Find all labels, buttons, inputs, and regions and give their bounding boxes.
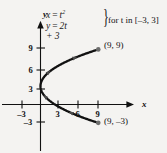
endpoint-dot-upper xyxy=(96,47,101,52)
equation-line-x: x=t2 xyxy=(46,9,65,20)
equation-brace: } xyxy=(103,5,109,27)
y-tick-label-1: 6 xyxy=(28,66,32,75)
equation-line-y: y=2t + 3 xyxy=(46,21,67,41)
x-tick-label-2: 6 xyxy=(75,110,79,119)
endpoint-label-lower: (9, –3) xyxy=(104,117,128,126)
endpoint-dot-lower xyxy=(96,121,101,126)
equation-x-exponent: 2 xyxy=(62,9,65,15)
curve-direction-arrow-1 xyxy=(69,112,74,116)
endpoint-label-upper: (9, 9) xyxy=(104,41,124,50)
x-tick-label-3: 9 xyxy=(95,110,99,119)
equation-y-equals: = xyxy=(50,21,59,31)
x-axis-label: x xyxy=(142,100,147,109)
x-tick-label-1: 3 xyxy=(55,110,59,119)
parameter-domain-text: for t in [–3, 3] xyxy=(108,16,159,25)
parametric-curve-figure: x=t2 y=2t + 3 for t in [–3, 3] } x y –33… xyxy=(0,0,167,153)
equation-x-equals: = xyxy=(50,10,59,20)
y-axis-label: y xyxy=(43,10,47,19)
y-tick-label-2: 3 xyxy=(28,85,32,94)
y-tick-label-0: 9 xyxy=(28,44,32,53)
y-tick-label-3: –3 xyxy=(24,118,33,127)
parametric-curve-path xyxy=(41,49,99,122)
curve-direction-arrow-4 xyxy=(72,57,77,61)
